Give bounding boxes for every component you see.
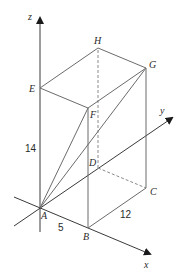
diagonal-AF (40, 108, 88, 208)
y-axis (14, 118, 172, 226)
z-axis-label: z (27, 11, 32, 22)
cuboid-diagram: z y x A B C D E F G H 14 5 12 (0, 0, 187, 274)
x-axis (14, 197, 150, 254)
diagonal-AG (40, 68, 146, 208)
edge-FG (88, 68, 146, 108)
edge-HG (98, 48, 146, 68)
edge-EF (40, 88, 88, 108)
dimension-AB: 5 (58, 222, 64, 233)
edge-DC (98, 168, 146, 188)
x-axis-label: x (143, 259, 149, 270)
vertex-label-F: F (89, 109, 97, 120)
vertex-label-A: A (40, 210, 48, 221)
edge-EH (40, 48, 98, 88)
dimension-AE: 14 (25, 143, 37, 154)
vertex-label-H: H (93, 35, 102, 46)
vertex-label-E: E (28, 83, 35, 94)
edge-BC (88, 188, 146, 228)
dimension-BC: 12 (120, 209, 132, 220)
y-axis-label: y (159, 105, 165, 116)
vertex-label-G: G (149, 59, 156, 70)
vertex-label-C: C (150, 186, 157, 197)
vertex-label-B: B (83, 231, 89, 242)
vertex-label-D: D (88, 157, 97, 168)
